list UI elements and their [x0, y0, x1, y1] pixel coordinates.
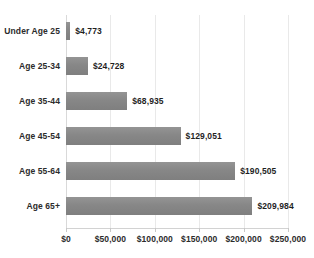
bar[interactable] [66, 92, 127, 110]
bar-row: Age 45-54$129,051 [66, 127, 288, 145]
gridline-250000 [288, 15, 289, 228]
bar-row: Age 35-44$68,935 [66, 92, 288, 110]
x-tick-0 [66, 228, 67, 232]
category-label: Age 35-44 [19, 96, 60, 106]
x-tick-label: $100,000 [137, 234, 173, 244]
bar[interactable] [66, 127, 181, 145]
bar[interactable] [66, 57, 88, 75]
category-label: Under Age 25 [4, 26, 60, 36]
category-label: Age 45-54 [19, 131, 60, 141]
x-tick-50000 [110, 228, 111, 232]
bar[interactable] [66, 22, 70, 40]
bar-value-label: $209,984 [257, 201, 293, 211]
bar-chart: Under Age 25$4,773Age 25-34$24,728Age 35… [0, 0, 314, 258]
bar-row: Under Age 25$4,773 [66, 22, 288, 40]
x-tick-100000 [155, 228, 156, 232]
x-tick-150000 [199, 228, 200, 232]
bar-value-label: $4,773 [75, 26, 102, 36]
x-tick-label: $0 [61, 234, 71, 244]
x-tick-label: $250,000 [270, 234, 306, 244]
x-tick-label: $50,000 [95, 234, 126, 244]
bar-value-label: $129,051 [186, 131, 222, 141]
x-tick-label: $200,000 [225, 234, 261, 244]
plot-area: Under Age 25$4,773Age 25-34$24,728Age 35… [66, 15, 288, 228]
category-label: Age 25-34 [19, 61, 60, 71]
bar-value-label: $68,935 [132, 96, 163, 106]
category-label: Age 65+ [26, 201, 60, 211]
x-axis-line [66, 228, 289, 229]
bar[interactable] [66, 197, 252, 215]
bar-row: Age 25-34$24,728 [66, 57, 288, 75]
bar-value-label: $190,505 [240, 166, 276, 176]
bar-row: Age 65+$209,984 [66, 197, 288, 215]
x-tick-label: $150,000 [181, 234, 217, 244]
bar[interactable] [66, 162, 235, 180]
category-label: Age 55-64 [19, 166, 60, 176]
x-tick-200000 [244, 228, 245, 232]
bar-value-label: $24,728 [93, 61, 124, 71]
x-tick-250000 [288, 228, 289, 232]
bar-row: Age 55-64$190,505 [66, 162, 288, 180]
